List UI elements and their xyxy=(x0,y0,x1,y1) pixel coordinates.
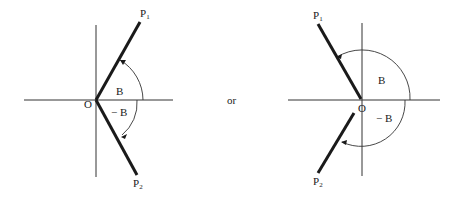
right-diagram: O P1 P2 B − B xyxy=(288,9,440,189)
right-angle-neg-b-label: − B xyxy=(376,112,392,124)
right-angle-b-label: B xyxy=(378,74,385,86)
right-ray-op2 xyxy=(318,113,354,173)
left-p1-label: P1 xyxy=(140,7,150,21)
right-p1-label: P1 xyxy=(313,9,323,23)
or-connector: or xyxy=(227,94,237,106)
right-ray-op1 xyxy=(318,24,361,99)
left-arc-b xyxy=(120,60,143,100)
angle-diagram: O P1 P2 B − B or O P1 P2 B − B xyxy=(0,0,461,199)
right-arc-neg-b xyxy=(342,100,405,146)
left-origin-label: O xyxy=(84,98,92,110)
left-diagram: O P1 P2 B − B xyxy=(24,7,173,191)
left-arrowhead-b xyxy=(120,60,126,65)
left-angle-b-label: B xyxy=(116,85,123,97)
left-p2-label: P2 xyxy=(133,177,143,191)
left-angle-neg-b-label: − B xyxy=(111,106,127,118)
right-p2-label: P2 xyxy=(313,175,323,189)
right-arrowhead-neg-b xyxy=(341,140,347,145)
right-origin-label: O xyxy=(358,102,366,114)
